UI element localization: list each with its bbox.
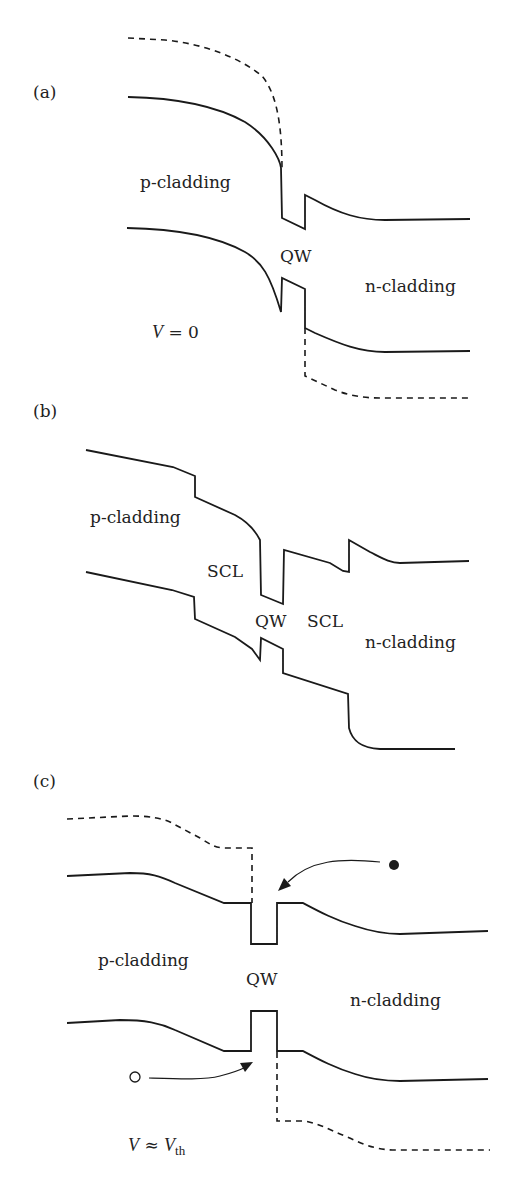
panel-label-a: (a) [33,82,56,102]
hole-icon [130,1072,140,1082]
quasi-fermi-level-electrons [67,816,252,903]
panel-a: (a) p-cladding QW n-cladding V = 0 [33,38,470,398]
hole-injection-arrow [149,1067,246,1079]
panel-b: (b) p-cladding SCL QW SCL n-cladding [33,401,469,749]
condition-label: V ≈ Vth [128,1135,186,1158]
label-qw: QW [255,611,287,631]
label-qw: QW [246,969,278,989]
condition-label: V = 0 [152,322,199,342]
label-qw: QW [280,246,312,266]
band-diagram-figure: (a) p-cladding QW n-cladding V = 0 (b) p… [0,0,517,1184]
conduction-band [128,97,470,229]
conduction-band [67,873,488,944]
panel-label-b: (b) [33,401,57,421]
label-p-cladding: p-cladding [140,172,231,192]
electron-icon [389,860,399,870]
quasi-fermi-level-electrons [128,38,282,170]
label-p-cladding: p-cladding [98,950,189,970]
panel-c: (c) p-cladding QW n-cladding V ≈ Vth [33,771,490,1158]
label-n-cladding: n-cladding [350,990,441,1010]
voltage-value: = 0 [163,322,199,342]
electron-injection-arrow [288,860,380,882]
approx-symbol: ≈ [139,1135,164,1155]
label-p-cladding: p-cladding [90,507,181,527]
label-scl-right: SCL [307,611,343,631]
label-n-cladding: n-cladding [365,632,456,652]
arrowhead-icon [278,878,291,891]
label-scl-left: SCL [207,561,243,581]
valence-band [67,1011,488,1081]
conduction-band [86,450,469,604]
label-n-cladding: n-cladding [365,276,456,296]
threshold-subscript: th [175,1143,186,1158]
panel-label-c: (c) [33,771,56,791]
arrowhead-icon [240,1062,253,1072]
quasi-fermi-level-holes [277,1052,490,1150]
